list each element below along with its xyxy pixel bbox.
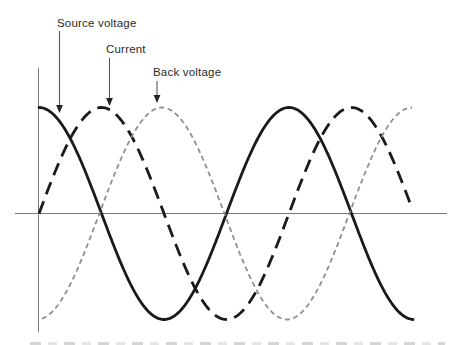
source-arrowhead-icon — [56, 105, 63, 113]
source-voltage-label: Source voltage — [57, 17, 137, 29]
current-arrowhead-icon — [106, 98, 113, 106]
waveform-plot — [0, 0, 457, 345]
back-arrowhead-icon — [154, 95, 161, 103]
waveform-figure: Source voltage Current Back voltage — [0, 0, 457, 345]
back-voltage-label: Back voltage — [153, 66, 221, 78]
current-label: Current — [106, 43, 146, 55]
